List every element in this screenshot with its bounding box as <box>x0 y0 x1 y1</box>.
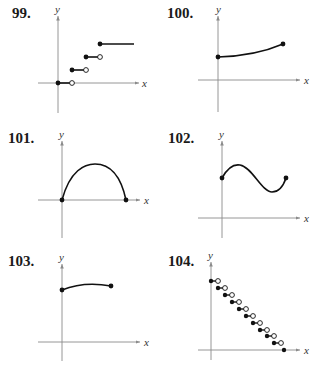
closed-dots <box>56 42 103 86</box>
y-axis-label: y <box>58 128 64 140</box>
graph-102: y x <box>198 128 309 238</box>
y-axis-label: y <box>54 3 60 15</box>
graph-100: y x <box>198 3 309 112</box>
graph-101: y x <box>38 128 149 238</box>
x-axis-label: x <box>303 344 309 356</box>
y-axis-label: y <box>207 249 213 261</box>
curve <box>218 44 283 57</box>
step-segments <box>211 281 281 343</box>
y-axis-label: y <box>58 251 64 263</box>
curve <box>62 284 111 290</box>
y-axis-label: y <box>215 3 221 15</box>
x-axis-label: x <box>143 194 149 206</box>
step-segments <box>58 44 134 83</box>
y-axis-label: y <box>218 128 224 140</box>
curve <box>62 164 126 200</box>
x-axis-label: x <box>303 212 309 224</box>
graph-99: y x <box>38 3 147 113</box>
open-dots <box>216 279 284 346</box>
curve <box>222 165 286 192</box>
graph-103: y x <box>38 251 149 361</box>
x-axis-label: x <box>143 336 149 348</box>
closed-dots <box>209 279 286 352</box>
graph-104: y x <box>198 249 309 360</box>
x-axis-label: x <box>141 77 147 89</box>
graphs-canvas: y x y x y x y x <box>0 0 321 376</box>
x-axis-label: x <box>303 74 309 86</box>
